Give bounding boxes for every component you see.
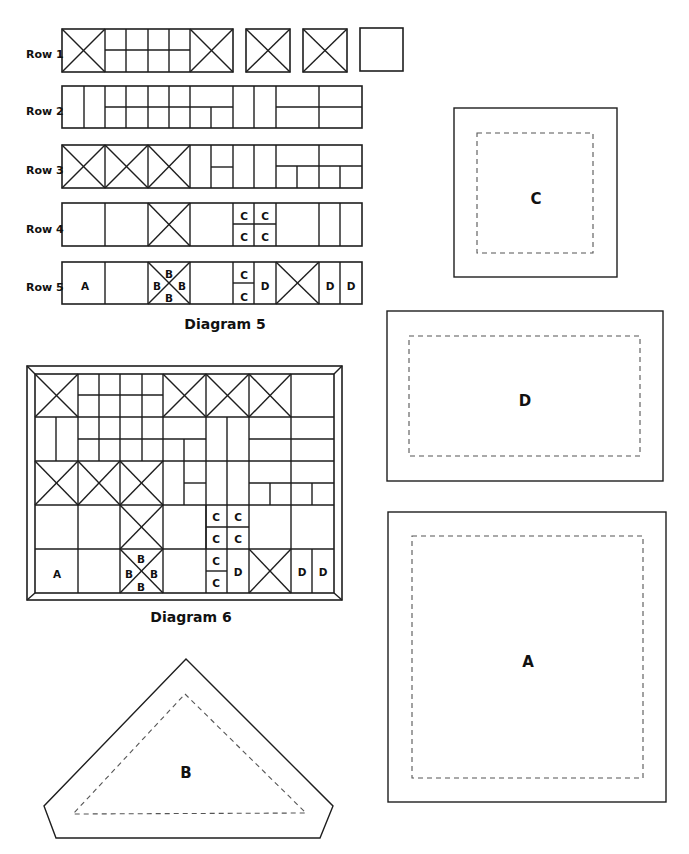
diagram-6-caption: Diagram 6 (150, 609, 231, 625)
template-label: C (530, 190, 541, 208)
patch-label: B (178, 280, 186, 292)
patch-label: C (240, 269, 248, 281)
template-b: B (44, 659, 333, 838)
row-strip (360, 28, 403, 71)
row-strip (62, 262, 362, 304)
patch-label: D (326, 280, 335, 292)
row-label: Row 3 (26, 164, 64, 177)
patch-label: B (137, 553, 145, 565)
patch-label: B (150, 568, 158, 580)
template-b-label: B (180, 764, 191, 782)
diagram-5-caption: Diagram 5 (184, 316, 265, 332)
row-label: Row 2 (26, 105, 64, 118)
patch-label: C (234, 533, 242, 545)
template-label: A (522, 653, 534, 671)
diagram-5-row-labels: Row 1Row 2Row 3Row 4Row 5 (26, 48, 64, 294)
patch-label: B (125, 568, 133, 580)
patch-label: C (212, 511, 220, 523)
patch-label: B (165, 268, 173, 280)
patch-label: C (240, 291, 248, 303)
patch-label: D (234, 566, 243, 578)
template-d: D (387, 311, 663, 481)
patch-label: B (153, 280, 161, 292)
row-label: Row 4 (26, 223, 64, 236)
template-b-seam-line (73, 694, 306, 814)
diagram-5-cell-labels: CCCCABBBBCCDDD (81, 210, 356, 304)
seam-line (27, 366, 35, 374)
template-b-cut-line (44, 659, 333, 838)
seam-line (27, 593, 35, 600)
patch-label: D (261, 280, 270, 292)
patch-label: D (298, 566, 307, 578)
template-a: A (388, 512, 666, 802)
diagram-5: Row 1Row 2Row 3Row 4Row 5 CCCCABBBBCCDDD… (26, 28, 403, 332)
patch-label: C (261, 210, 269, 222)
patch-label: D (319, 566, 328, 578)
seam-line (334, 593, 342, 600)
patch-label: C (212, 577, 220, 589)
diagram-6-seams (27, 366, 342, 600)
patch-label: C (240, 231, 248, 243)
row-label: Row 5 (26, 281, 64, 294)
patch-label: C (240, 210, 248, 222)
template-label: D (519, 392, 531, 410)
patch-label: C (212, 533, 220, 545)
patch-label: C (261, 231, 269, 243)
patch-label: B (165, 292, 173, 304)
patch-label: B (137, 581, 145, 593)
quilt-pattern-sheet: Row 1Row 2Row 3Row 4Row 5 CCCCABBBBCCDDD… (0, 0, 689, 854)
patch-label: A (53, 568, 62, 580)
template-c: C (454, 108, 617, 277)
templates: CDA (387, 108, 666, 802)
patch-label: C (234, 511, 242, 523)
patch-label: C (212, 555, 220, 567)
seam-line (334, 366, 342, 374)
diagram-6-cell-labels: CCCCABBBBCCDDD (53, 511, 328, 593)
patch-label: A (81, 280, 90, 292)
row-label: Row 1 (26, 48, 64, 61)
row-strip (62, 203, 362, 246)
patch-label: D (347, 280, 356, 292)
diagram-6: CCCCABBBBCCDDD Diagram 6 (27, 366, 342, 625)
